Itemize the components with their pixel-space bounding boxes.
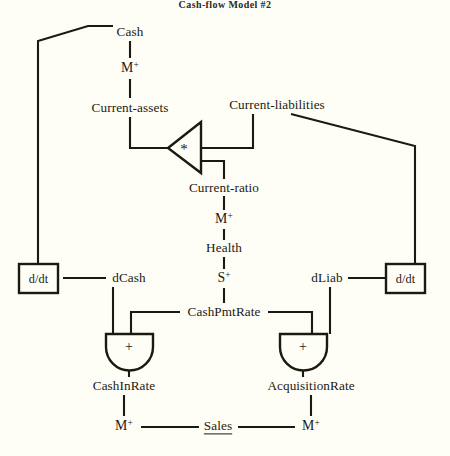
influence-current-ratio-to-health: M+: [213, 212, 236, 226]
influence-sales-to-cash-in-rate: M+: [113, 419, 136, 433]
influence-sign: +: [225, 270, 230, 280]
edge-cash-pmt-rate-to-adder-right: [268, 312, 312, 334]
influence-sales-to-acquisition-rate: M+: [300, 419, 323, 433]
edge-current-liabilities-to-multiplier: [201, 114, 253, 148]
node-dliab: dLiab: [309, 271, 344, 284]
influence-symbol: M: [302, 418, 314, 433]
influence-sign: +: [127, 418, 132, 428]
influence-health-to-cash-pmt-rate: S+: [215, 271, 233, 285]
multiplier-operator-symbol: *: [180, 142, 188, 157]
edge-multiplier-to-current-ratio: [201, 161, 224, 179]
influence-sign: +: [133, 60, 138, 70]
node-cash-in-rate: CashInRate: [91, 379, 158, 392]
node-current-liabilities: Current-liabilities: [227, 98, 327, 111]
influence-sign: +: [227, 211, 232, 221]
influence-cash-to-current-assets: M+: [119, 61, 142, 75]
node-acquisition-rate: AcquisitionRate: [265, 379, 356, 392]
adder-right-operator-symbol: +: [299, 340, 307, 354]
node-cash: Cash: [115, 25, 146, 38]
node-dcash: dCash: [110, 271, 147, 284]
ddt-right-label: d/dt: [396, 273, 416, 285]
influence-symbol: M: [115, 418, 127, 433]
adder-left-operator-symbol: +: [125, 340, 133, 354]
edge-current-liabilities-to-ddt-right: [291, 114, 415, 264]
diagram-canvas: Cash-flow Model #2 Cash M+ Current-asset…: [0, 0, 450, 456]
influence-sign: +: [314, 418, 319, 428]
node-current-ratio: Current-ratio: [187, 181, 261, 194]
diagram-edges: [0, 0, 450, 456]
edge-current-assets-to-multiplier: [130, 117, 168, 148]
ddt-left-label: d/dt: [29, 273, 49, 285]
influence-symbol: M: [215, 211, 227, 226]
edge-cash-to-ddt-left: [38, 26, 113, 264]
node-current-assets: Current-assets: [90, 101, 171, 114]
influence-symbol: M: [121, 60, 133, 75]
node-cash-pmt-rate: CashPmtRate: [186, 305, 263, 318]
edge-cash-pmt-rate-to-adder-left: [131, 312, 180, 334]
diagram-title: Cash-flow Model #2: [177, 0, 274, 10]
node-sales: Sales: [202, 419, 234, 432]
node-health: Health: [204, 241, 244, 254]
